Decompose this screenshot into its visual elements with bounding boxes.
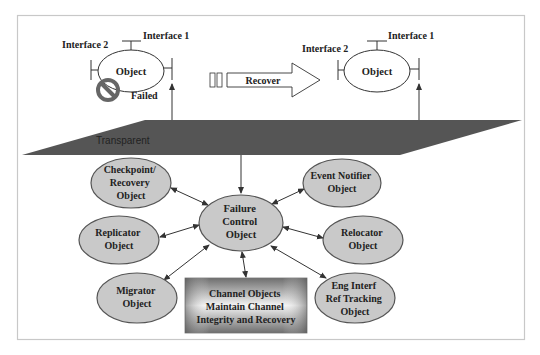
eng-interf-line-2: Ref Tracking [326,293,382,304]
center-line-3: Object [226,229,257,240]
event-notifier-line-2: Object [328,183,358,194]
interface-2-label-right: Interface 2 [302,43,348,54]
recovered-object-label: Object [362,66,393,77]
replicator-line-1: Replicator [95,227,141,238]
eng-interf-line-1: Eng Interf [331,280,376,291]
channel-line-1: Channel Objects [209,288,281,299]
checkpoint-line-1: Checkpoint/ [104,164,156,175]
channel-line-3: Integrity and Recovery [197,314,296,325]
eng-interf-ref-tracking-node: Eng Interf Ref Tracking Object [315,273,395,323]
center-line-1: Failure [223,203,256,214]
migrator-node: Migrator Object [97,273,177,323]
transparent-label: Transparent [96,135,150,146]
relocator-line-1: Relocator [341,227,383,238]
svg-text:Channel Objects Maintain: Channel Objects Maintain Channel Integri… [197,288,296,325]
interface-1-label-right: Interface 1 [388,30,434,41]
migrator-line-1: Migrator [116,285,156,296]
recover-label: Recover [246,75,282,86]
center-line-2: Control [222,216,257,227]
migrator-line-2: Object [123,298,153,309]
relocator-node: Relocator Object [323,216,403,264]
interface-2-label: Interface 2 [62,39,108,50]
event-notifier-node: Event Notifier Object [303,159,381,207]
checkpoint-line-3: Object [117,190,147,201]
svg-text:Failure Control Ob: Failure Control Object [222,203,259,240]
checkpoint-recovery-node: Checkpoint/ Recovery Object [91,158,171,208]
checkpoint-line-2: Recovery [110,177,150,188]
replicator-line-2: Object [105,240,135,251]
relocator-line-2: Object [349,240,379,251]
failure-control-node: Failure Control Object [199,195,283,251]
event-notifier-line-1: Event Notifier [310,170,371,181]
interface-1-label: Interface 1 [143,30,189,41]
replicator-node: Replicator Object [79,216,159,264]
channel-objects-box: Channel Objects Maintain Channel Integri… [185,278,307,333]
diagram-canvas: Object Interface 1 Interface 2 Failed Re… [0,0,540,355]
failed-object-label: Object [116,66,147,77]
failed-status-label: Failed [131,90,158,101]
channel-line-2: Maintain Channel [206,301,284,312]
eng-interf-line-3: Object [341,306,371,317]
